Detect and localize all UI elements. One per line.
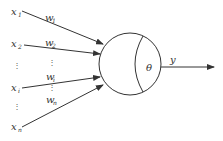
neuron: θ [99, 33, 161, 95]
svg-text:⋮: ⋮ [13, 61, 21, 70]
svg-text:2: 2 [17, 43, 22, 50]
edge-x1 [22, 11, 103, 44]
edge-x2 [24, 45, 100, 54]
input-x2: x 2 w 2 [11, 37, 100, 54]
threshold-label: θ [146, 62, 152, 73]
input-x1: x 1 w 1 [11, 6, 103, 44]
ellipsis-1: ⋮ ⋮ [13, 58, 56, 70]
svg-text:1: 1 [18, 11, 22, 18]
svg-text:n: n [18, 126, 22, 133]
svg-text:x: x [11, 6, 17, 17]
svg-text:⋮: ⋮ [48, 58, 56, 67]
input-xn: x n w n [11, 85, 103, 133]
svg-text:2: 2 [51, 42, 56, 49]
svg-text:x: x [11, 38, 17, 49]
svg-text:i: i [53, 76, 55, 83]
neuron-divider [135, 36, 143, 92]
svg-text:i: i [18, 87, 20, 94]
neuron-diagram: x 1 w 1 x 2 w 2 ⋮ ⋮ x i w i ⋮ [0, 0, 223, 141]
output-label: y [169, 54, 176, 65]
diagram-canvas: x 1 w 1 x 2 w 2 ⋮ ⋮ x i w i ⋮ [0, 0, 223, 141]
svg-text:⋮: ⋮ [13, 102, 21, 111]
svg-text:x: x [11, 82, 17, 93]
svg-text:x: x [11, 121, 17, 132]
svg-text:1: 1 [52, 17, 56, 24]
edge-xn [22, 85, 103, 127]
svg-text:n: n [53, 99, 57, 106]
edge-xi [22, 77, 100, 88]
svg-text:⋮: ⋮ [48, 83, 56, 92]
output: y [161, 54, 214, 67]
